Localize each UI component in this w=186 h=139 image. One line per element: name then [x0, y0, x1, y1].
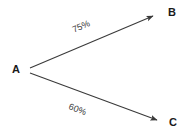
edge-a-to-b: [30, 16, 153, 68]
edge-a-to-c: [30, 73, 157, 120]
diagram-svg: [0, 0, 186, 139]
node-label-b: B: [168, 7, 176, 18]
node-label-a: A: [12, 64, 20, 75]
diagram-canvas: A B C 75% 60%: [0, 0, 186, 139]
node-label-c: C: [169, 117, 177, 128]
